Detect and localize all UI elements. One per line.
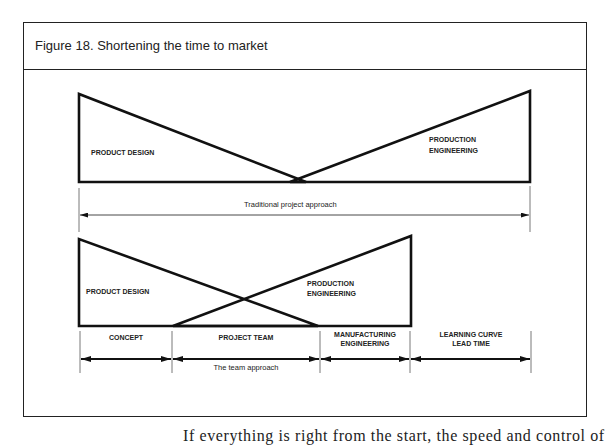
team-production-engineering-triangle [173, 236, 411, 326]
traditional-product-design-label: PRODUCT DESIGN [91, 149, 154, 156]
traditional-product-design-triangle [79, 94, 306, 182]
traditional-production-label-2: ENGINEERING [429, 147, 479, 154]
traditional-span-caption: Traditional project approach [244, 200, 337, 209]
phase-label-manufacturing-1: MANUFACTURING [334, 331, 396, 338]
traditional-production-label-1: PRODUCTION [429, 136, 476, 143]
phase-label-learning-curve-1: LEARNING CURVE [440, 331, 503, 338]
team-span-caption: The team approach [213, 363, 278, 372]
phase-label-learning-curve-2: LEAD TIME [452, 340, 490, 347]
body-text-line: If everything is right from the start, t… [183, 427, 605, 445]
team-diagram: PRODUCT DESIGN PRODUCTION ENGINEERING CO… [79, 236, 531, 373]
team-production-label-2: ENGINEERING [307, 290, 357, 297]
team-product-design-label: PRODUCT DESIGN [86, 288, 149, 295]
traditional-production-engineering-triangle [290, 91, 530, 182]
phase-label-manufacturing-2: ENGINEERING [340, 340, 390, 347]
team-production-label-1: PRODUCTION [307, 280, 354, 287]
phase-label-project-team: PROJECT TEAM [219, 334, 274, 341]
team-product-design-triangle [79, 239, 318, 326]
phase-label-concept: CONCEPT [109, 334, 144, 341]
traditional-diagram: PRODUCT DESIGN PRODUCTION ENGINEERING Tr… [79, 91, 530, 232]
